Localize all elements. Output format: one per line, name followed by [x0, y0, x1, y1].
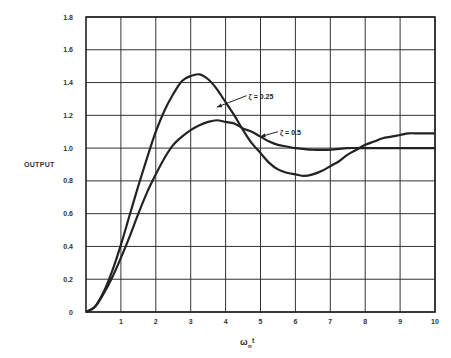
- x-tick-label: 7: [328, 318, 332, 325]
- arrowhead-icon: [261, 133, 266, 137]
- y-tick-label: 0.8: [63, 177, 73, 184]
- y-tick-label: 1.8: [63, 14, 73, 21]
- y-tick-label: 0.4: [63, 243, 73, 250]
- y-tick-label: 0.2: [63, 276, 73, 283]
- y-axis-ticks: 00.20.40.60.81.01.21.41.61.8: [63, 14, 73, 316]
- x-tick-label: 4: [224, 318, 228, 325]
- x-label-omega: ω: [240, 337, 248, 347]
- y-tick-label: 1.6: [63, 46, 73, 53]
- y-tick-label: 0.6: [63, 210, 73, 217]
- x-tick-label: 10: [431, 318, 439, 325]
- x-axis-ticks: 12345678910: [119, 318, 439, 325]
- y-tick-label: 0: [69, 309, 73, 316]
- x-tick-label: 2: [154, 318, 158, 325]
- x-tick-label: 1: [119, 318, 123, 325]
- x-label-t: t: [252, 337, 255, 344]
- y-tick-label: 1.2: [63, 112, 73, 119]
- y-axis-label: OUTPUT: [24, 161, 55, 168]
- annotation-label: ζ = 0.5: [280, 129, 301, 137]
- annotation-label: ζ = 0.25: [249, 93, 274, 101]
- arrowhead-icon: [217, 103, 222, 107]
- x-tick-label: 9: [398, 318, 402, 325]
- x-tick-label: 8: [363, 318, 367, 325]
- grid: [86, 17, 435, 312]
- x-tick-label: 3: [189, 318, 193, 325]
- y-tick-label: 1.4: [63, 79, 73, 86]
- step-response-chart: 00.20.40.60.81.01.21.41.61.8 12345678910…: [0, 0, 451, 358]
- x-tick-label: 6: [293, 318, 297, 325]
- x-axis-label: ωnt: [240, 337, 255, 349]
- y-tick-label: 1.0: [63, 145, 73, 152]
- x-tick-label: 5: [259, 318, 263, 325]
